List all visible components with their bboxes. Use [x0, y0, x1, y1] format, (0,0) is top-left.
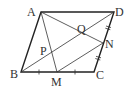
label-d: D [115, 5, 124, 19]
segment-am [41, 12, 57, 72]
label-m: M [51, 75, 62, 89]
segment-an [41, 12, 103, 43]
label-n: N [105, 37, 114, 51]
geometry-diagram: A D B C M N P Q [0, 0, 131, 92]
label-c: C [96, 68, 104, 82]
label-a: A [27, 5, 36, 19]
label-q: Q [77, 22, 86, 36]
label-p: P [40, 44, 47, 58]
label-b: B [10, 67, 18, 81]
segment-bd [21, 12, 114, 72]
